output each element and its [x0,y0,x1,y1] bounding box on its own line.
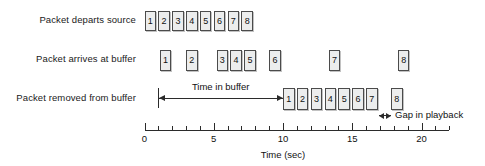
axis-tick-minor [158,126,159,130]
axis-tick-minor [366,126,367,130]
axis-tick-label: 0 [142,133,147,144]
row-label-departs-source: Packet departs source [4,14,136,25]
axis-tick-minor [269,126,270,130]
packet-box: 7 [228,11,240,31]
axis-tick-major [422,123,423,130]
time-in-buffer-right-arrowhead [277,95,283,101]
axis-tick-minor [172,126,173,130]
packet-box: 8 [398,50,410,71]
axis-tick-minor [408,126,409,130]
time-axis-line [145,130,450,131]
axis-tick-label: 5 [211,133,216,144]
packet-box: 1 [145,11,157,31]
axis-title: Time (sec) [261,149,306,160]
axis-tick-minor [325,126,326,130]
row-label-removed-from-buffer: Packet removed from buffer [4,92,136,103]
time-in-buffer-label: Time in buffer [192,81,250,92]
axis-tick-minor [297,126,298,130]
packet-box: 3 [172,11,184,31]
axis-tick-label: 15 [347,133,358,144]
axis-tick-minor [200,126,201,130]
packet-box: 7 [366,88,378,110]
packet-box: 1 [283,88,295,110]
packet-box: 4 [186,11,198,31]
packet-timeline-figure: Packet departs source Packet arrives at … [0,0,485,166]
axis-tick-minor [311,126,312,130]
gap-in-playback-label: Gap in playback [395,109,463,120]
time-in-buffer-left-arrowhead [159,95,165,101]
axis-tick-minor [255,126,256,130]
axis-tick-label: 10 [278,133,289,144]
row-label-arrives-at-buffer: Packet arrives at buffer [4,53,136,64]
packet-box: 1 [160,50,172,71]
axis-tick-major [214,123,215,130]
packet-box: 5 [244,50,256,71]
packet-box: 2 [158,11,170,31]
time-in-buffer-line [158,98,283,99]
packet-box: 6 [214,11,226,31]
axis-tick-minor [435,126,436,130]
packet-box: 2 [186,50,198,71]
axis-tick-minor [338,126,339,130]
axis-tick-major [283,123,284,130]
packet-box: 2 [297,88,309,110]
axis-tick-minor [449,126,450,130]
packet-box: 6 [352,88,364,110]
packet-box: 8 [391,88,403,110]
axis-tick-major [352,123,353,130]
axis-tick-minor [228,126,229,130]
axis-tick-label: 20 [416,133,427,144]
packet-box: 8 [241,11,253,31]
axis-tick-minor [186,126,187,130]
packet-box: 4 [230,50,242,71]
axis-tick-major [145,123,146,130]
packet-box: 5 [338,88,350,110]
packet-box: 6 [269,50,281,71]
gap-in-playback-right-arrowhead [386,113,391,119]
packet-box: 5 [200,11,212,31]
packet-box: 7 [329,50,341,71]
packet-box: 4 [325,88,337,110]
packet-box: 3 [311,88,323,110]
axis-tick-minor [241,126,242,130]
packet-box: 3 [217,50,229,71]
axis-tick-minor [380,126,381,130]
axis-tick-minor [394,126,395,130]
gap-in-playback-left-arrowhead [379,113,384,119]
